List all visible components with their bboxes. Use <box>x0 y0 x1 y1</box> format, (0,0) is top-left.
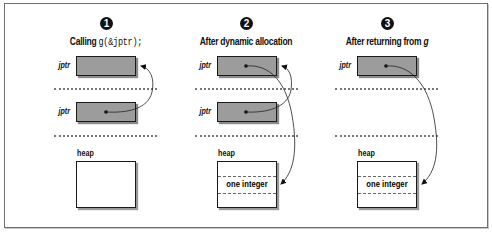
pointer-arrows <box>0 0 492 234</box>
panel-2-arrow-heap <box>244 64 295 184</box>
panel-1-arrow <box>104 66 153 114</box>
panel-3-arrow-heap <box>384 64 437 184</box>
